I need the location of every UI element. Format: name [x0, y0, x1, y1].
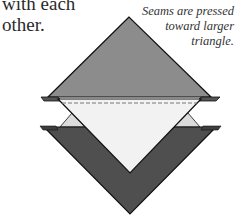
bottom-left-flap	[40, 126, 58, 130]
bottom-right-flap	[201, 126, 221, 130]
quilt-triangle-diagram	[0, 0, 240, 217]
top-large-triangle	[48, 17, 211, 97]
